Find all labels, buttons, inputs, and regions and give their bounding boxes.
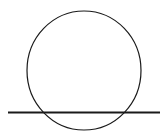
diagram-canvas: [0, 0, 165, 138]
